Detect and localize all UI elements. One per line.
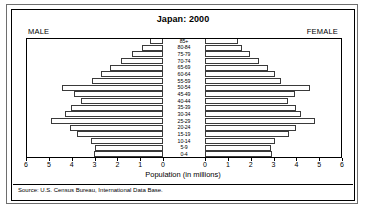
plot-right-border	[341, 38, 342, 158]
male-bar-45-49	[74, 91, 163, 97]
male-bar-row	[26, 91, 163, 98]
male-bar-15-19	[77, 131, 163, 137]
x-tick-label-male-2: 2	[111, 161, 123, 168]
female-bar-15-19	[205, 131, 289, 137]
female-bar-25-29	[205, 118, 315, 124]
female-bar-80-84	[205, 45, 242, 51]
x-tick-label-male-0: 0	[157, 161, 169, 168]
female-bar-row	[205, 91, 342, 98]
male-bar-60-64	[101, 71, 163, 77]
male-bar-55-59	[92, 78, 163, 84]
male-bar-10-14	[91, 138, 163, 144]
female-bar-row	[205, 131, 342, 138]
male-bar-row	[26, 111, 163, 118]
male-bar-row	[26, 51, 163, 58]
x-tick-label-female-1: 1	[222, 161, 234, 168]
female-bar-60-64	[205, 71, 275, 77]
age-group-axis: 85+80-8475-7970-7465-6960-6455-5950-5445…	[163, 38, 205, 158]
female-bar-row	[205, 45, 342, 52]
male-bar-40-44	[81, 98, 163, 104]
female-bars-group	[205, 38, 342, 158]
male-bar-35-39	[71, 105, 163, 111]
female-bar-row	[205, 105, 342, 112]
age-group-label-30-34: 30-34	[163, 111, 205, 118]
female-bar-75-79	[205, 51, 250, 57]
male-bar-row	[26, 65, 163, 72]
source-divider	[13, 184, 353, 185]
female-bar-70-74	[205, 58, 259, 64]
female-bar-35-39	[205, 105, 296, 111]
female-bar-row	[205, 71, 342, 78]
male-bar-30-34	[65, 111, 163, 117]
male-bar-20-24	[70, 125, 163, 131]
female-bar-row	[205, 85, 342, 92]
page-title: Japan: 2000	[12, 14, 354, 24]
x-tick-label-male-6: 6	[20, 161, 32, 168]
male-bar-75-79	[132, 51, 164, 57]
female-side-label: FEMALE	[307, 27, 338, 36]
female-bar-50-54	[205, 85, 310, 91]
source-note: Source: U.S. Census Bureau, Internationa…	[18, 187, 163, 193]
male-bar-row	[26, 58, 163, 65]
female-bar-row	[205, 111, 342, 118]
x-tick-label-female-6: 6	[336, 161, 348, 168]
female-bar-45-49	[205, 91, 295, 97]
female-bar-row	[205, 51, 342, 58]
male-bar-25-29	[51, 118, 163, 124]
female-bar-20-24	[205, 125, 296, 131]
plot-top-border	[26, 38, 342, 39]
age-group-label-60-64: 60-64	[163, 71, 205, 78]
male-bar-row	[26, 145, 163, 152]
x-axis-label: Population (in millions)	[12, 170, 354, 179]
female-bar-row	[205, 65, 342, 72]
male-side-label: MALE	[28, 27, 49, 36]
male-bar-row	[26, 85, 163, 92]
x-tick-label-male-4: 4	[66, 161, 78, 168]
female-bar-row	[205, 138, 342, 145]
female-bar-row	[205, 98, 342, 105]
x-tick-label-female-4: 4	[290, 161, 302, 168]
female-bar-65-69	[205, 65, 268, 71]
female-bar-10-14	[205, 138, 275, 144]
female-bar-40-44	[205, 98, 288, 104]
male-bar-row	[26, 118, 163, 125]
x-tick-label-male-5: 5	[43, 161, 55, 168]
x-tick-label-female-5: 5	[313, 161, 325, 168]
female-bar-row	[205, 78, 342, 85]
male-bar-80-84	[142, 45, 163, 51]
age-group-label-15-19: 15-19	[163, 131, 205, 138]
x-tick-label-female-2: 2	[245, 161, 257, 168]
chart-inner-frame: Japan: 2000 MALE FEMALE 85+80-8475-7970-…	[11, 9, 355, 201]
male-bar-70-74	[121, 58, 163, 64]
male-bars-group	[26, 38, 163, 158]
plot-area: 85+80-8475-7970-7465-6960-6455-5950-5445…	[26, 38, 342, 158]
male-bar-row	[26, 105, 163, 112]
female-bar-row	[205, 145, 342, 152]
male-bar-row	[26, 138, 163, 145]
x-tick-label-female-3: 3	[268, 161, 280, 168]
age-group-label-45-49: 45-49	[163, 91, 205, 98]
female-bar-30-34	[205, 111, 301, 117]
female-bar-row	[205, 125, 342, 132]
male-bar-50-54	[62, 85, 163, 91]
male-bar-row	[26, 45, 163, 52]
male-bar-row	[26, 78, 163, 85]
plot-left-border	[26, 38, 27, 158]
female-bar-55-59	[205, 78, 281, 84]
male-bar-5-9	[95, 145, 163, 151]
age-group-label-75-79: 75-79	[163, 51, 205, 58]
x-axis-ticks: 01234560123456	[26, 158, 342, 170]
x-tick-label-female-0: 0	[199, 161, 211, 168]
female-bar-row	[205, 58, 342, 65]
female-bar-5-9	[205, 145, 271, 151]
x-tick-label-male-3: 3	[89, 161, 101, 168]
male-bar-65-69	[110, 65, 163, 71]
x-tick-label-male-1: 1	[134, 161, 146, 168]
male-bar-row	[26, 131, 163, 138]
male-bar-row	[26, 71, 163, 78]
female-bar-row	[205, 118, 342, 125]
chart-figure: Japan: 2000 MALE FEMALE 85+80-8475-7970-…	[6, 4, 358, 204]
male-bar-row	[26, 98, 163, 105]
male-bar-row	[26, 125, 163, 132]
